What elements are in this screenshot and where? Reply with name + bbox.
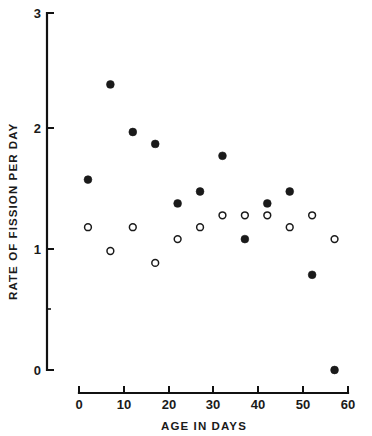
data-point (152, 260, 159, 267)
data-point (106, 81, 114, 89)
data-point (197, 224, 204, 231)
plot-canvas: 3 2 1 0 RATE OF FISSION PER DAY 0 10 20 … (0, 0, 372, 436)
data-point (219, 212, 226, 219)
x-tick-label-10: 10 (117, 397, 131, 412)
data-point (129, 224, 136, 231)
data-point (85, 224, 92, 231)
data-point (286, 224, 293, 231)
data-point (308, 271, 316, 279)
data-point (331, 366, 339, 374)
data-point (241, 235, 249, 243)
data-point (263, 200, 271, 208)
x-axis (79, 386, 348, 393)
data-point (129, 128, 137, 136)
data-point (219, 152, 227, 160)
x-tick-label-0: 0 (75, 397, 82, 412)
y-tick-label-2: 2 (34, 121, 41, 136)
data-point (264, 212, 271, 219)
y-tick-label-3: 3 (34, 6, 41, 21)
y-tick-label-1: 1 (34, 242, 41, 257)
y-axis-title: RATE OF FISSION PER DAY (7, 123, 19, 300)
data-point (174, 200, 182, 208)
data-point (84, 176, 92, 184)
series-closed-circles (84, 81, 338, 374)
data-point (151, 140, 159, 148)
x-tick-label-20: 20 (162, 397, 176, 412)
data-point (107, 248, 114, 255)
data-point (196, 188, 204, 196)
scatter-chart: 3 2 1 0 RATE OF FISSION PER DAY 0 10 20 … (0, 0, 372, 436)
series-open-circles (85, 212, 338, 266)
data-point (286, 188, 294, 196)
x-tick-label-60: 60 (341, 397, 355, 412)
y-axis (47, 13, 54, 370)
x-tick-label-30: 30 (206, 397, 220, 412)
data-point (331, 236, 338, 243)
x-axis-title: AGE IN DAYS (161, 420, 247, 432)
data-point (174, 236, 181, 243)
x-tick-label-50: 50 (296, 397, 310, 412)
y-tick-label-0: 0 (34, 363, 41, 378)
x-tick-label-40: 40 (251, 397, 265, 412)
data-point (241, 212, 248, 219)
data-point (309, 212, 316, 219)
